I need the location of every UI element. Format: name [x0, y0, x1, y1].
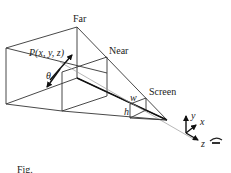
z-axis-label: z [200, 138, 205, 149]
eye-icon [210, 138, 222, 144]
theta-label: θ [46, 70, 51, 81]
point-label: P(x, y, z) [28, 47, 65, 59]
x-axis-label: x [199, 116, 205, 127]
far-label: Far [73, 13, 87, 24]
near-plane [62, 57, 107, 111]
y-axis-label: y [190, 110, 196, 121]
height-label: h [124, 106, 129, 117]
screen-label: Screen [149, 86, 176, 97]
near-label: Near [109, 45, 129, 56]
width-label: w [130, 92, 137, 103]
caption-fragment: Fig. [17, 164, 33, 173]
point-arrow [50, 55, 72, 80]
view-frustum-diagram: Far Near Screen P(x, y, z) θ w h y x z F… [0, 0, 231, 173]
view-ray [60, 62, 195, 140]
